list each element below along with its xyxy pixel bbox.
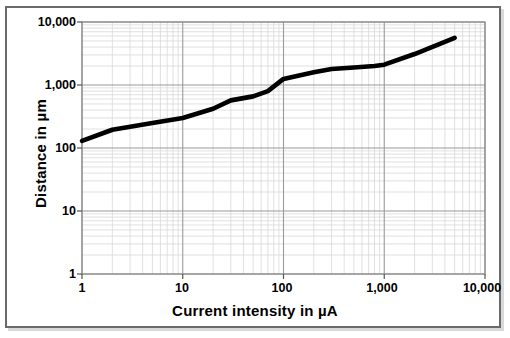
x-tick-100: 100 [247, 281, 317, 295]
chart-figure: 10,000 1,000 100 10 1 1 10 100 1,000 10,… [0, 0, 510, 338]
x-tick-1: 1 [47, 281, 117, 295]
y-axis-title: Distance in µm [32, 34, 49, 274]
y-tick-10000: 10,000 [8, 15, 76, 29]
data-series-line [82, 38, 455, 141]
x-axis-title: Current intensity in µA [0, 302, 510, 319]
x-tick-10000: 10,000 [447, 281, 510, 295]
x-tick-1000: 1,000 [347, 281, 417, 295]
x-tick-10: 10 [147, 281, 217, 295]
